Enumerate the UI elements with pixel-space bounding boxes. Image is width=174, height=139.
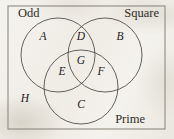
region-label-e: E (57, 65, 65, 77)
region-label-c: C (77, 98, 85, 110)
region-label-d: D (76, 30, 86, 42)
region-label-a: A (38, 30, 47, 42)
universal-set-rectangle (8, 6, 165, 129)
venn-diagram-figure: Odd Square Prime A B C D E F G H (0, 0, 174, 139)
region-label-h: H (20, 92, 30, 104)
set-label-odd: Odd (18, 6, 40, 20)
region-label-f: F (96, 65, 105, 77)
region-label-g: G (77, 54, 86, 66)
region-label-b: B (116, 30, 123, 42)
venn-diagram-canvas: Odd Square Prime A B C D E F G H (0, 0, 174, 139)
set-label-prime: Prime (115, 112, 145, 126)
set-label-square: Square (124, 6, 159, 20)
